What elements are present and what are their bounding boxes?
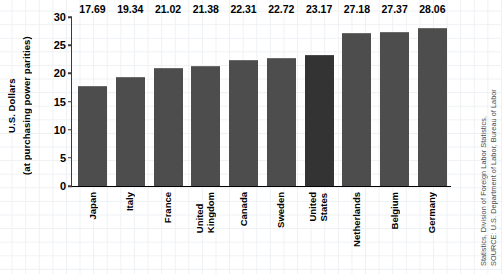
bar-value-label: 28.06 (419, 3, 445, 15)
x-axis-label-slot: Canada (227, 190, 258, 270)
x-axis-tick-label: France (162, 192, 173, 223)
x-axis-tick-label: UnitedStates (307, 192, 329, 222)
bar: 27.37 (380, 32, 409, 186)
bar: 28.06 (418, 28, 447, 186)
bar-value-label: 17.69 (79, 3, 105, 15)
x-axis-label-slot: Belgium (378, 190, 409, 270)
bar: 21.02 (154, 68, 183, 186)
bar: 17.69 (78, 86, 107, 186)
x-axis-tick-label: Netherlands (350, 192, 361, 247)
bar-value-label: 19.34 (117, 3, 143, 15)
bar: 27.18 (342, 33, 371, 186)
bar-value-label: 21.02 (155, 3, 181, 15)
x-axis-label-slot: Italy (114, 190, 145, 270)
plot-area: 051015202530 17.6919.3421.0221.3822.3122… (71, 17, 451, 187)
bar-slot: 27.37 (379, 17, 410, 186)
x-axis-label-slot: UnitedKingdom (189, 190, 220, 270)
x-axis-label-slot: UnitedStates (303, 190, 334, 270)
bar-slot: 19.34 (115, 17, 146, 186)
x-axis-tick-label-line: France (162, 192, 173, 223)
bar-chart: U.S. Dollars (at purchasing power pariti… (0, 0, 502, 274)
x-axis-tick-label-line: Belgium (388, 192, 399, 229)
x-axis-tick-label: UnitedKingdom (194, 192, 216, 233)
bar: 22.31 (229, 60, 258, 186)
x-axis-tick-label: Sweden (275, 192, 286, 228)
bar-value-label: 22.72 (268, 3, 294, 15)
x-axis-label-slot: Sweden (265, 190, 296, 270)
x-axis-labels: JapanItalyFranceUnitedKingdomCanadaSwede… (71, 190, 450, 270)
bar-slot: 21.38 (190, 17, 221, 186)
x-axis-tick-label: Japan (86, 192, 97, 219)
x-axis-tick-label-line: United (194, 192, 205, 233)
x-axis-label-slot: Germany (416, 190, 447, 270)
bar-value-label: 27.37 (381, 3, 407, 15)
x-axis-tick-label-line: Italy (124, 192, 135, 211)
bar-value-label: 27.18 (344, 3, 370, 15)
bar-slot: 22.31 (228, 17, 259, 186)
source-note: SOURCE: U.S. Department of Labor, Bureau… (467, 8, 501, 270)
bar-slot: 27.18 (341, 17, 372, 186)
bar: 19.34 (116, 77, 145, 186)
bar-slot: 28.06 (417, 17, 448, 186)
y-axis-title: U.S. Dollars (at purchasing power pariti… (0, 0, 46, 200)
bar: 21.38 (191, 66, 220, 186)
x-axis-tick-label-line: Netherlands (350, 192, 361, 247)
x-axis-tick-label: Germany (426, 192, 437, 233)
bar-slot: 23.17 (304, 17, 335, 186)
bar: 23.17 (305, 55, 334, 186)
x-axis-tick-label-line: Canada (237, 192, 248, 226)
x-axis-tick-label: Canada (237, 192, 248, 226)
x-axis-tick-label-line: United (307, 192, 318, 222)
x-axis-tick-label-line: Sweden (275, 192, 286, 228)
source-note-line-2: Statistics, Division of Foreign Labor St… (479, 8, 488, 266)
x-axis-label-slot: Netherlands (340, 190, 371, 270)
x-axis-tick-label-line: States (318, 192, 329, 222)
y-axis-title-line-1: U.S. Dollars (6, 46, 17, 166)
bar-value-label: 21.38 (193, 3, 219, 15)
bar-value-label: 23.17 (306, 3, 332, 15)
source-note-line-1: SOURCE: U.S. Department of Labor, Bureau… (489, 8, 498, 266)
bar: 22.72 (267, 58, 296, 186)
y-axis-title-line-2: (at purchasing power parities) (21, 18, 32, 194)
bar-value-label: 22.31 (230, 3, 256, 15)
x-axis-tick-label: Italy (124, 192, 135, 211)
x-axis-label-slot: France (152, 190, 183, 270)
x-axis-tick-label-line: Kingdom (205, 192, 216, 233)
bar-slot: 22.72 (266, 17, 297, 186)
bar-series: 17.6919.3421.0221.3822.3122.7223.1727.18… (72, 17, 451, 186)
bar-slot: 17.69 (77, 17, 108, 186)
x-axis-tick-label-line: Japan (86, 192, 97, 219)
bar-slot: 21.02 (153, 17, 184, 186)
x-axis-tick-label-line: Germany (426, 192, 437, 233)
x-axis-tick-label: Belgium (388, 192, 399, 229)
x-axis-label-slot: Japan (76, 190, 107, 270)
